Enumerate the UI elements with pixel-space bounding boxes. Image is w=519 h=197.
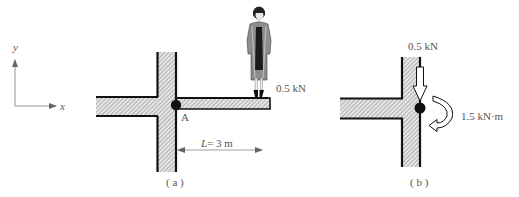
dimension-value: = 3 m xyxy=(207,137,233,149)
x-axis-label: x xyxy=(59,100,65,112)
person-figure-icon xyxy=(247,7,271,98)
dimension-variable: L xyxy=(200,137,207,149)
dimension-label: L= 3 m xyxy=(200,137,233,149)
moment-arrow-icon xyxy=(429,96,453,132)
diagram-canvas: y x A xyxy=(0,0,519,197)
joint-a-label: A xyxy=(181,111,189,123)
caption-a: ( a ) xyxy=(166,176,184,189)
load-label-a: 0.5 kN xyxy=(276,82,306,94)
force-label-b: 0.5 kN xyxy=(408,40,438,52)
coordinate-axes: y x xyxy=(12,41,65,112)
moment-label-b: 1.5 kN·m xyxy=(461,110,504,122)
figure-a-frame: A 0.5 kN L= 3 m ( a ) xyxy=(96,7,306,190)
joint-dot-b xyxy=(415,103,426,114)
y-axis-label: y xyxy=(12,41,18,53)
caption-b: ( b ) xyxy=(410,176,429,189)
figure-b-frame: 0.5 kN 1.5 kN·m ( b ) xyxy=(340,40,504,189)
joint-a-dot xyxy=(171,100,181,110)
frame-fill-b xyxy=(340,57,420,167)
